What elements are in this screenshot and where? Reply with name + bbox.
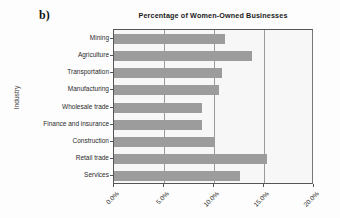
y-axis-tick-mark	[110, 141, 113, 142]
x-axis-tick-mark	[263, 184, 264, 187]
y-axis-tick-mark	[110, 89, 113, 90]
panel-letter: b)	[39, 8, 50, 23]
x-axis-tick-mark	[213, 184, 214, 187]
y-axis-tick-mark	[110, 124, 113, 125]
y-axis-title: Industry	[13, 68, 20, 128]
bar	[114, 171, 240, 181]
y-axis-tick-label: Services	[84, 171, 109, 178]
y-axis-tick-mark	[110, 158, 113, 159]
bar	[114, 34, 225, 44]
figure-panel: b) Percentage of Women-Owned Businesses …	[0, 0, 340, 218]
y-axis-tick-mark	[110, 175, 113, 176]
y-axis-tick-label: Retail trade	[76, 154, 109, 161]
y-axis-tick-label: Manufacturing	[68, 85, 109, 92]
y-axis-tick-label: Mining	[90, 34, 109, 41]
y-axis-tick-mark	[110, 38, 113, 39]
x-axis-tick-mark	[113, 184, 114, 187]
y-axis-tick-mark	[110, 107, 113, 108]
x-axis-tick-label: 20.0%	[298, 190, 320, 212]
bar	[114, 51, 252, 61]
y-axis-tick-label: Transportation	[67, 68, 109, 75]
bar	[114, 137, 215, 147]
bar	[114, 154, 267, 164]
x-axis-tick-mark	[163, 184, 164, 187]
y-axis-tick-mark	[110, 72, 113, 73]
bar	[114, 68, 222, 78]
bar	[114, 85, 219, 95]
x-axis-tick-label: 0.0%	[98, 190, 120, 212]
x-axis-tick-label: 15.0%	[248, 190, 270, 212]
y-axis-tick-label: Wholesale trade	[62, 103, 109, 110]
y-axis-tick-label: Finance and insurance	[43, 120, 109, 127]
x-axis-tick-label: 10.0%	[198, 190, 220, 212]
bar	[114, 103, 202, 113]
x-axis-tick-label: 5.0%	[148, 190, 170, 212]
plot-area	[113, 29, 313, 184]
bar	[114, 120, 202, 130]
y-axis-tick-mark	[110, 55, 113, 56]
x-axis-tick-mark	[313, 184, 314, 187]
chart-title: Percentage of Women-Owned Businesses	[113, 11, 313, 20]
y-axis-tick-label: Construction	[73, 137, 110, 144]
y-axis-tick-label: Agriculture	[78, 51, 109, 58]
